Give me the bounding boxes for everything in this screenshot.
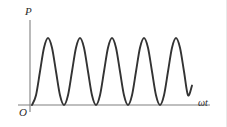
x-axis-label: ωt: [198, 98, 208, 108]
right-edge-divider: [226, 0, 227, 127]
data-series-group: [32, 38, 192, 105]
y-axis-label: P: [25, 6, 32, 17]
plot-canvas: [0, 0, 227, 127]
axes-group: [18, 20, 210, 112]
power-waveform-figure: P O ωt: [0, 0, 227, 127]
power-waveform-curve: [32, 38, 192, 105]
origin-label: O: [19, 107, 27, 118]
